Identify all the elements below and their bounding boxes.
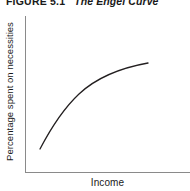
figure-title: The Engel Curve: [74, 0, 158, 7]
figure-number-label: FIGURE 5.1: [6, 0, 65, 7]
figure-caption: FIGURE 5.1The Engel Curve: [6, 0, 190, 8]
engel-curve-line: [40, 63, 148, 149]
x-axis-label: Income: [25, 176, 190, 189]
y-axis-label: Percentage spent on necessities: [3, 13, 17, 170]
figure-container: FIGURE 5.1The Engel Curve Percentage spe…: [0, 0, 190, 191]
engel-curve-plot: [25, 16, 190, 173]
plot-area: [25, 16, 190, 173]
